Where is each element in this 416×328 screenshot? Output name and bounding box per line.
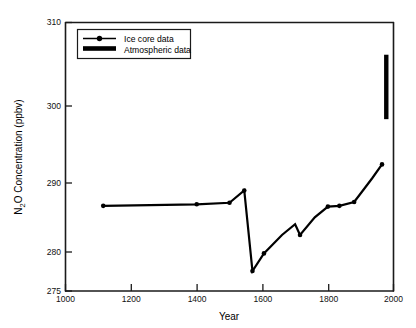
ice-core-line [103,164,382,271]
x-axis-ticks: 1000 1200 1400 1600 1800 2000 [56,284,403,304]
x-tick-label-1400: 1400 [188,294,207,304]
y-tick-label-310: 310 [47,17,61,27]
legend-sample-atmospheric-bar [83,46,116,51]
ice-core-data-point [250,269,255,274]
axes-group [65,22,394,292]
figure-root: 310 300 290 280 275 1000 1200 1400 1600 … [0,0,416,328]
y-tick-label-290: 290 [47,178,61,188]
ice-core-data-point [194,202,199,207]
chart-canvas: 310 300 290 280 275 1000 1200 1400 1600 … [0,0,416,328]
y-axis-ticks: 310 300 290 280 275 [47,17,72,296]
x-tick-label-1200: 1200 [122,294,141,304]
y-tick-label-300: 300 [47,101,61,111]
ice-core-data-point [227,200,232,205]
legend: Ice core data Atmospheric data [78,30,192,59]
series-ice-core-data [101,162,384,273]
ice-core-data-point [326,204,331,209]
ice-core-data-point [298,233,303,238]
x-tick-label-1800: 1800 [319,294,338,304]
ice-core-markers [101,162,384,273]
ice-core-data-point [380,162,385,167]
legend-label-ice-core: Ice core data [124,34,174,44]
x-axis-title: Year [219,311,240,322]
x-tick-label-1600: 1600 [253,294,272,304]
x-tick-label-1000: 1000 [56,294,75,304]
ice-core-data-point [337,204,342,209]
y-axis-title: N2O Concentration (ppbv) [13,99,27,214]
legend-label-atmospheric: Atmospheric data [124,45,191,55]
ice-core-data-point [242,188,247,193]
ice-core-data-point [101,204,106,209]
x-tick-label-2000: 2000 [384,294,403,304]
legend-sample-ice-core-dot [97,36,102,41]
y-tick-label-280: 280 [47,247,61,257]
ice-core-data-point [262,251,267,256]
ice-core-data-point [352,200,357,205]
